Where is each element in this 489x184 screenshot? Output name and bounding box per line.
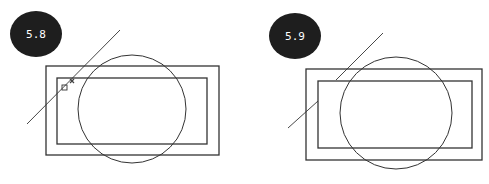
circle <box>78 55 186 163</box>
snap-intersection-x-icon <box>70 79 74 83</box>
outer-rectangle <box>46 66 219 155</box>
inner-rectangle <box>318 81 472 148</box>
inner-rectangle <box>57 78 207 144</box>
figure-5-9: 5.9 <box>269 13 482 169</box>
figure-label: 5.8 <box>26 28 46 41</box>
diagram-canvas: 5.8 5.9 <box>0 0 489 184</box>
circle <box>340 57 452 169</box>
figure-5-8: 5.8 <box>10 11 219 163</box>
trimmed-line-segment-lower <box>288 101 318 128</box>
outer-rectangle <box>306 69 482 160</box>
trimmed-line-segment-upper <box>336 33 383 80</box>
figure-label: 5.9 <box>285 30 305 43</box>
